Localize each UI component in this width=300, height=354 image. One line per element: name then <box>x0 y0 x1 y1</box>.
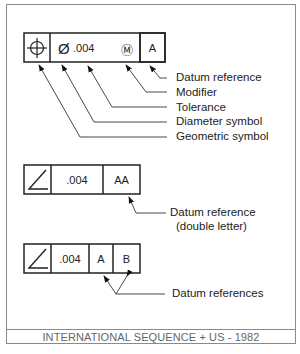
tolerance-value: .004 <box>51 174 103 186</box>
angularity-icon <box>29 249 48 268</box>
label-datum-reference-double: Datum reference <box>170 206 256 218</box>
label-tolerance: Tolerance <box>176 101 226 113</box>
datum-letter-a: A <box>89 253 113 265</box>
position-icon <box>27 38 47 58</box>
tolerance-value: .004 <box>51 253 89 265</box>
angularity-icon <box>29 170 48 189</box>
datum-letters: AA <box>103 174 140 186</box>
diameter-symbol: Ø <box>58 40 70 57</box>
datum-letter-b: B <box>113 253 140 265</box>
datum-letter: A <box>140 42 165 54</box>
footer-caption: INTERNATIONAL SEQUENCE + US - 1982 <box>6 329 296 344</box>
label-geometric-symbol: Geometric symbol <box>176 130 269 142</box>
label-datum-reference: Datum reference <box>176 71 262 83</box>
label-datum-references: Datum references <box>172 287 263 299</box>
tolerance-value: .004 <box>73 42 94 54</box>
modifier-symbol: Ⓜ <box>121 41 133 58</box>
label-diameter-symbol: Diameter symbol <box>176 115 262 127</box>
label-modifier: Modifier <box>176 86 217 98</box>
label-double-letter: (double letter) <box>176 220 247 232</box>
